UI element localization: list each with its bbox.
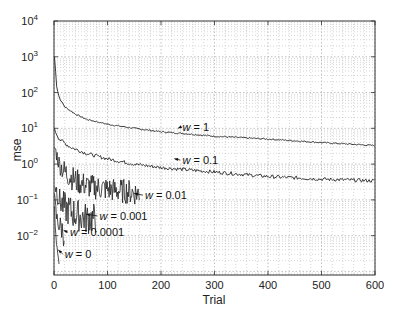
y-tick-label: 104	[21, 13, 38, 27]
y-tick-label: 103	[21, 49, 38, 63]
y-tick-label: 101	[21, 120, 38, 134]
series-label: w = 0	[65, 248, 92, 260]
series-label: w = 0.01	[145, 189, 187, 201]
series-label: w = 0.0001	[70, 226, 124, 238]
series-label: w = 0.001	[99, 210, 147, 222]
series-label: w = 1	[182, 121, 209, 133]
x-tick-label: 500	[312, 279, 330, 291]
y-tick-label: 102	[21, 85, 38, 99]
x-tick-label: 100	[98, 279, 116, 291]
y-tick-label: 10−2	[17, 228, 39, 242]
x-tick-label: 400	[259, 279, 277, 291]
mse-vs-trial-chart: 0100200300400500600 10410310210110010−11…	[0, 0, 399, 319]
series-label: w = 0.1	[182, 154, 218, 166]
x-axis-label: Trial	[203, 293, 226, 307]
x-tick-label: 0	[51, 279, 57, 291]
x-tick-label: 600	[366, 279, 384, 291]
y-axis-label: mse	[10, 138, 24, 161]
y-tick-label: 10−1	[17, 192, 39, 206]
x-tick-label: 300	[205, 279, 223, 291]
x-tick-label: 200	[152, 279, 170, 291]
